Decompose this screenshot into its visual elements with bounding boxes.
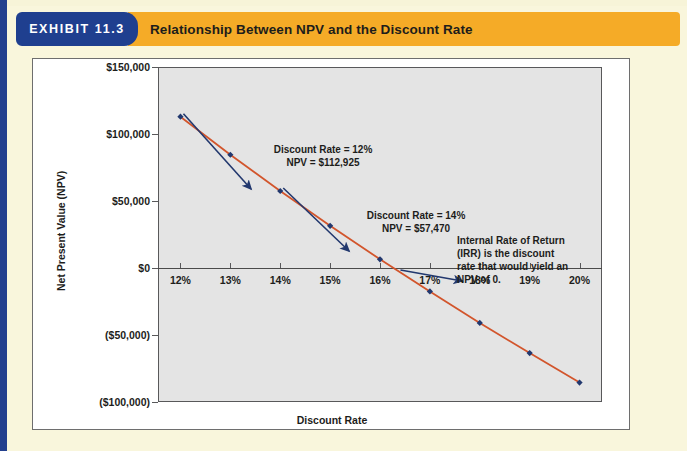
chart-card: $150,000$100,000$50,000$0($50,000)($100,… bbox=[32, 58, 630, 430]
exhibit-header: Relationship Between NPV and the Discoun… bbox=[8, 12, 680, 46]
y-axis-title: Net Present Value (NPV) bbox=[55, 170, 67, 290]
exhibit-number-badge: EXHIBIT 11.3 bbox=[16, 12, 138, 46]
exhibit-page: Relationship Between NPV and the Discoun… bbox=[0, 0, 687, 451]
left-border-rule bbox=[0, 0, 7, 451]
exhibit-title: Relationship Between NPV and the Discoun… bbox=[150, 22, 473, 37]
x-axis-title: Discount Rate bbox=[33, 414, 631, 426]
exhibit-title-bar: Relationship Between NPV and the Discoun… bbox=[128, 12, 680, 46]
annotation-14pct: Discount Rate = 14% NPV = $57,470 bbox=[331, 209, 501, 235]
chart-plot-wrapper: $150,000$100,000$50,000$0($50,000)($100,… bbox=[33, 59, 631, 431]
exhibit-number-label: EXHIBIT 11.3 bbox=[29, 22, 125, 36]
annotation-irr: Internal Rate of Return (IRR) is the dis… bbox=[457, 234, 617, 286]
annotation-12pct: Discount Rate = 12% NPV = $112,925 bbox=[238, 143, 408, 169]
